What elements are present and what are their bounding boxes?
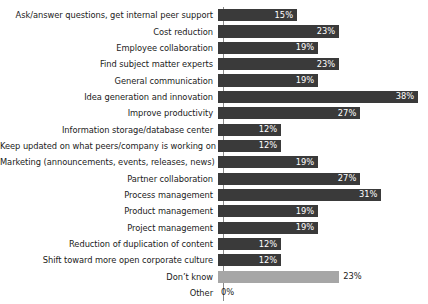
bar-value-label: 19% — [296, 223, 318, 232]
bar-track: 27% — [218, 170, 428, 186]
category-label: Improve productivity — [0, 108, 218, 118]
bar: 12% — [218, 124, 281, 136]
bar-row: Information storage/database center12% — [0, 121, 428, 137]
bar-value-label: 31% — [359, 190, 381, 199]
bar: 12% — [218, 140, 281, 152]
bar: 19% — [218, 222, 318, 234]
category-label: Keep updated on what peers/company is wo… — [0, 141, 218, 151]
category-label: Partner collaboration — [0, 174, 218, 184]
bar-track: 19% — [218, 203, 428, 219]
bar-row: General communication19% — [0, 72, 428, 88]
bar-track: 19% — [218, 219, 428, 235]
bar: 23% — [218, 25, 339, 37]
bar-value-label: 19% — [296, 76, 318, 85]
bar-track: 38% — [218, 89, 428, 105]
plot-area: Ask/answer questions, get internal peer … — [0, 7, 428, 301]
bar: 19% — [218, 74, 318, 86]
bar-value-label: 27% — [338, 174, 360, 183]
bar-value-label: 19% — [296, 43, 318, 52]
bar-track: 12% — [218, 252, 428, 268]
bar-track: 12% — [218, 138, 428, 154]
bar-row: Project management19% — [0, 219, 428, 235]
bar: 12% — [218, 254, 281, 266]
bar-row: Idea generation and innovation38% — [0, 89, 428, 105]
bar-row: Employee collaboration19% — [0, 40, 428, 56]
category-label: General communication — [0, 76, 218, 86]
category-label: Reduction of duplication of content — [0, 239, 218, 249]
category-label: Cost reduction — [0, 27, 218, 37]
bar-row: Cost reduction23% — [0, 23, 428, 39]
bar-track: 23% — [218, 23, 428, 39]
bar-row: Other0% — [0, 285, 428, 301]
bar: 27% — [218, 107, 360, 119]
bar: 31% — [218, 189, 381, 201]
category-label: Find subject matter experts — [0, 59, 218, 69]
bar-value-label: 19% — [296, 207, 318, 216]
category-label: Ask/answer questions, get internal peer … — [0, 10, 218, 20]
bar-row: Ask/answer questions, get internal peer … — [0, 7, 428, 23]
category-label: Employee collaboration — [0, 43, 218, 53]
bar-track: 23% — [218, 56, 428, 72]
bar-track: 19% — [218, 40, 428, 56]
bar-row: Reduction of duplication of content12% — [0, 236, 428, 252]
bar-row: Shift toward more open corporate culture… — [0, 252, 428, 268]
bar: 38% — [218, 91, 418, 103]
bar-row: Keep updated on what peers/company is wo… — [0, 138, 428, 154]
category-label: Idea generation and innovation — [0, 92, 218, 102]
bar-track: 19% — [218, 154, 428, 170]
bar-chart: Ask/answer questions, get internal peer … — [0, 0, 428, 304]
category-label: Information storage/database center — [0, 125, 218, 135]
bar-row: Find subject matter experts23% — [0, 56, 428, 72]
category-label: Shift toward more open corporate culture — [0, 255, 218, 265]
bar-value-label: 23% — [317, 27, 339, 36]
bar-value-label: 12% — [259, 125, 281, 134]
category-label: Other — [0, 288, 218, 298]
bar-row: Improve productivity27% — [0, 105, 428, 121]
bar-track: 15% — [218, 7, 428, 23]
bar-value-label: 38% — [396, 92, 418, 101]
bar-value-label: 27% — [338, 109, 360, 118]
bar: 19% — [218, 156, 318, 168]
bar-row: Partner collaboration27% — [0, 170, 428, 186]
bar-value-label: 12% — [259, 240, 281, 249]
bar-row: Product management19% — [0, 203, 428, 219]
bar-track: 31% — [218, 187, 428, 203]
bar: 15% — [218, 9, 297, 21]
bar: 12% — [218, 238, 281, 250]
bar-value-label: 23% — [317, 60, 339, 69]
bar-value-label: 23% — [343, 272, 361, 281]
bar: 19% — [218, 42, 318, 54]
category-label: Don’t know — [0, 272, 218, 282]
bar-row: Don’t know23% — [0, 269, 428, 285]
category-label: Process management — [0, 190, 218, 200]
bar: 27% — [218, 173, 360, 185]
bar-track: 23% — [218, 269, 428, 285]
bar-value-label: 15% — [275, 11, 297, 20]
bar-track: 27% — [218, 105, 428, 121]
bar-track: 19% — [218, 72, 428, 88]
bar-value-label: 19% — [296, 158, 318, 167]
bar-track: 0% — [218, 285, 428, 301]
bar — [218, 271, 339, 283]
bar-row: Process management31% — [0, 187, 428, 203]
category-label: Product management — [0, 206, 218, 216]
bar-value-label: 12% — [259, 256, 281, 265]
category-label: Marketing (announcements, events, releas… — [0, 157, 218, 167]
bar: 19% — [218, 205, 318, 217]
bar-row: Marketing (announcements, events, releas… — [0, 154, 428, 170]
bar-value-label: 0% — [221, 288, 234, 297]
bar-track: 12% — [218, 236, 428, 252]
category-label: Project management — [0, 223, 218, 233]
bar-track: 12% — [218, 121, 428, 137]
bar: 23% — [218, 58, 339, 70]
bar-value-label: 12% — [259, 141, 281, 150]
